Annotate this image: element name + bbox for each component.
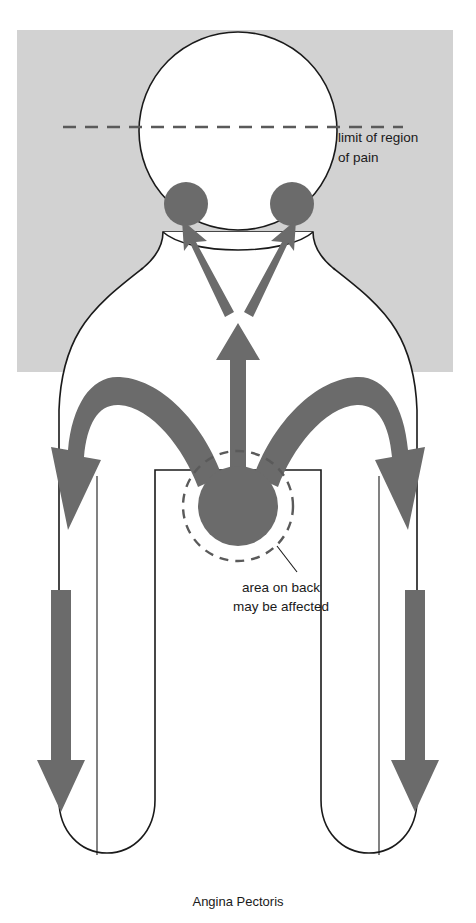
diagram-canvas: limit of region of pain area on back may… — [0, 0, 476, 923]
figure-caption-group: Angina Pectoris — [192, 894, 284, 909]
back-label-leader-line — [277, 546, 297, 572]
limit-of-region-line1: limit of region — [338, 130, 418, 145]
limit-of-region-line2: of pain — [338, 150, 379, 165]
area-on-back-line2: may be affected — [233, 599, 329, 614]
figure-caption: Angina Pectoris — [192, 894, 284, 909]
jaw-pain-spot-left — [164, 182, 208, 226]
angina-pectoris-diagram: limit of region of pain area on back may… — [0, 0, 476, 923]
jaw-pain-spot-right — [270, 182, 314, 226]
area-on-back-line1: area on back — [242, 580, 320, 595]
sternum-pain-circle — [198, 466, 278, 546]
area-on-back-label: area on back may be affected — [233, 580, 329, 614]
